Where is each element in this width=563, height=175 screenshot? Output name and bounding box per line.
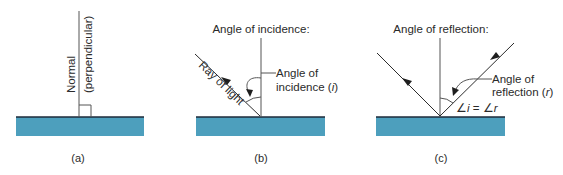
panel-title: Angle of incidence: (212, 23, 309, 35)
panel-a: Normal (perpendicular) (a) (16, 11, 144, 164)
pointer-arrow-icon (452, 87, 459, 96)
caption-b: (b) (254, 152, 267, 164)
angle-arc (246, 97, 261, 102)
water-block (196, 117, 325, 136)
curved-pointer (456, 79, 478, 89)
normal-label: Normal (65, 56, 77, 93)
perpendicular-label: (perpendicular) (82, 15, 94, 93)
reflection-diagram: Normal (perpendicular) (a) Angle of inci… (0, 0, 563, 175)
angle-label-line2: reflection (r) (492, 86, 554, 98)
panel-title: Angle of reflection: (393, 23, 488, 35)
right-angle-marker (79, 105, 91, 117)
angle-arc (440, 98, 453, 103)
caption-c: (c) (435, 152, 448, 164)
panel-c: Angle of reflection: Angle of reflection… (376, 23, 554, 164)
water-block (376, 117, 505, 136)
incident-arrow-icon (402, 78, 412, 86)
equality-equation: ∠i = ∠r (456, 102, 499, 114)
pointer-arrow-icon (246, 89, 253, 97)
panel-b: Angle of incidence: Ray of light Angle o… (195, 23, 338, 164)
angle-label-line1: Angle of (492, 73, 535, 85)
ray-of-light-label: Ray of light (197, 59, 248, 108)
angle-label-line1: Angle of (276, 67, 319, 79)
water-block (16, 117, 144, 136)
caption-a: (a) (71, 152, 84, 164)
angle-label-line2: incidence (i) (276, 81, 338, 93)
